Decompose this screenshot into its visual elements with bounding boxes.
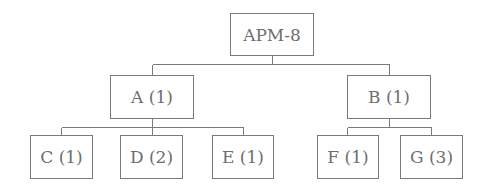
node-d: D (2) xyxy=(120,135,183,179)
node-c: C (1) xyxy=(30,135,93,179)
node-f: F (1) xyxy=(317,135,379,179)
node-a: A (1) xyxy=(110,75,194,119)
node-b: B (1) xyxy=(347,75,431,119)
node-root: APM-8 xyxy=(230,13,314,56)
node-e: E (1) xyxy=(212,135,274,179)
node-g: G (3) xyxy=(400,135,463,179)
tree-diagram: APM-8 A (1) B (1) C (1) D (2) E (1) F (1… xyxy=(0,0,489,195)
